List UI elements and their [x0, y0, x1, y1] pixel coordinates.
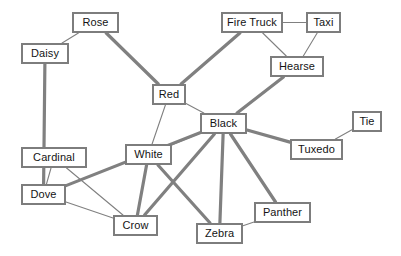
- edge-cardinal-dove: [46, 168, 51, 184]
- node-label: Panther: [263, 207, 302, 218]
- node-label: Zebra: [205, 228, 234, 239]
- node-cardinal[interactable]: Cardinal: [21, 147, 87, 168]
- edge-dove-crow: [66, 202, 113, 218]
- node-label: Black: [210, 118, 237, 129]
- node-zebra[interactable]: Zebra: [196, 223, 243, 244]
- node-tuxedo[interactable]: Tuxedo: [290, 139, 343, 160]
- edge-white-crow: [137, 165, 146, 215]
- word-association-diagram: RoseFire TruckTaxiDaisyHearseRedBlackTie…: [0, 0, 401, 256]
- node-label: Dove: [30, 189, 56, 200]
- edge-fire_truck-hearse: [263, 33, 287, 56]
- node-daisy[interactable]: Daisy: [21, 43, 69, 64]
- node-label: Tuxedo: [298, 144, 335, 155]
- edge-rose-red: [106, 33, 158, 84]
- node-label: Daisy: [31, 48, 59, 59]
- node-red[interactable]: Red: [152, 84, 186, 105]
- node-label: Fire Truck: [227, 17, 277, 28]
- node-label: Tie: [359, 116, 374, 127]
- edge-white-zebra: [158, 165, 210, 223]
- node-label: Taxi: [314, 17, 334, 28]
- node-label: Crow: [122, 220, 148, 231]
- node-panther[interactable]: Panther: [254, 202, 311, 223]
- node-black[interactable]: Black: [200, 113, 247, 134]
- node-dove[interactable]: Dove: [21, 184, 66, 205]
- edge-hearse-black: [237, 77, 283, 113]
- node-taxi[interactable]: Taxi: [306, 12, 341, 33]
- node-label: Red: [159, 89, 179, 100]
- node-tie[interactable]: Tie: [352, 111, 382, 132]
- edge-red-black: [186, 104, 204, 113]
- edge-taxi-hearse: [303, 33, 317, 56]
- edge-black-zebra: [220, 134, 223, 223]
- node-hearse[interactable]: Hearse: [270, 56, 324, 77]
- edge-daisy-rose: [62, 33, 78, 43]
- node-label: Hearse: [279, 61, 315, 72]
- edge-tuxedo-tie: [335, 130, 352, 139]
- edge-panther-zebra: [243, 222, 254, 226]
- node-label: Rose: [82, 17, 108, 28]
- node-label: Cardinal: [33, 152, 75, 163]
- node-label: White: [134, 149, 163, 160]
- node-fire_truck[interactable]: Fire Truck: [221, 12, 283, 33]
- edge-black-tuxedo: [247, 130, 290, 142]
- node-white[interactable]: White: [125, 144, 172, 165]
- edge-black-panther: [230, 134, 275, 202]
- edge-red-white: [152, 105, 165, 144]
- edge-fire_truck-red: [181, 33, 240, 84]
- node-crow[interactable]: Crow: [113, 215, 158, 236]
- node-rose[interactable]: Rose: [72, 12, 119, 33]
